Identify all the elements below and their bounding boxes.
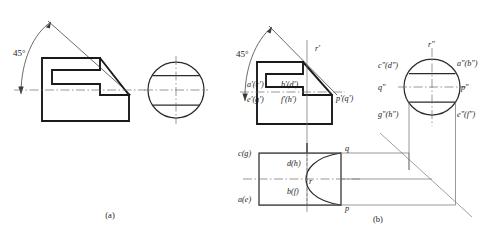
label-side-p: p" [460,83,469,92]
label-front-pq: p'(q') [335,94,353,103]
label-side-gh: g"(h") [378,110,399,119]
figure-a-group: 45° (a) [13,21,208,220]
label-front-r: r' [315,44,320,53]
label-top-cg: c(g) [238,149,251,158]
miter-line-45 [380,133,472,217]
label-side-q: q" [378,83,386,92]
angle-label-a: 45° [13,48,26,58]
label-front-ac: a'(c') [247,80,264,89]
label-top-p: p [344,204,349,213]
label-front-eg: e'(g') [247,95,264,104]
engineering-drawing-svg: 45° (a) [0,0,497,233]
label-side-cd: c"(d") [378,61,398,70]
label-side-ab: a"(b") [457,59,478,68]
construction-line-45-b [269,26,337,95]
label-top-bf: b(f) [287,187,299,196]
label-side-r: r" [428,40,435,49]
chamfer-edge-a [100,58,129,95]
caption-a: (a) [105,210,115,220]
caption-b: (b) [373,214,383,224]
front-view-outline-b [257,62,332,124]
label-front-bd: b'(d') [281,80,298,89]
technical-drawing-page: 45° (a) [0,0,497,233]
label-side-ef: e"(f") [457,110,476,119]
front-view-outline-a [42,58,129,121]
figure-b-group: 45° (b) a'(c') b'(d') e'(g') f'(h') p'(q… [236,26,478,224]
label-top-q: q [345,144,349,153]
label-front-fh: f'(h') [281,95,297,104]
label-top-ae: a(e) [238,195,251,204]
label-top-r: r [309,177,313,186]
angle-label-b: 45° [236,49,249,59]
label-top-dh: d(h) [287,159,301,168]
